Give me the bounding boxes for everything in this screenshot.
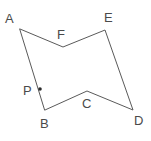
- polygon-abcdef: [20, 29, 133, 110]
- vertex-label-e: E: [104, 11, 113, 24]
- vertex-label-c: C: [82, 97, 91, 110]
- vertex-label-b: B: [40, 117, 49, 130]
- polygon-drawing: [0, 0, 151, 141]
- geometry-figure: A F E D C B P: [0, 0, 151, 141]
- vertex-label-d: D: [134, 114, 143, 127]
- vertex-label-a: A: [5, 12, 14, 25]
- point-p-marker: [38, 87, 42, 91]
- vertex-label-f: F: [57, 28, 65, 41]
- point-label-p: P: [23, 84, 32, 97]
